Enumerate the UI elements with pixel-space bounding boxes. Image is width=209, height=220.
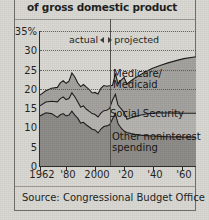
title-divider (15, 19, 195, 20)
right-arrow-icon (108, 37, 112, 43)
area-label-other-line2: spending (112, 142, 201, 153)
page-title: of gross domestic product (27, 1, 197, 13)
gridline-35 (40, 31, 196, 32)
area-label-medicare-line2: Medicaid (113, 79, 162, 90)
legend: actual projected (58, 33, 170, 46)
y-tick-15: 15 (24, 103, 37, 114)
y-tick-30: 30 (24, 45, 37, 56)
y-tick-10: 10 (24, 122, 37, 133)
legend-actual-label: actual (69, 35, 98, 45)
area-label-other-noninterest: Other noninterest spending (112, 131, 201, 153)
source-divider (15, 186, 195, 187)
area-label-other-line1: Other noninterest (112, 131, 201, 142)
y-tick-20: 20 (24, 83, 37, 94)
x-label-1962: 1962 (29, 169, 54, 180)
x-label-2000: 2000 (84, 169, 109, 180)
left-arrow-icon (100, 37, 104, 43)
area-label-medicare-medicaid: Medicare/ Medicaid (113, 68, 162, 90)
area-label-social-security: Social Security (110, 108, 184, 119)
y-tick-5: 5 (31, 141, 37, 152)
y-tick-25: 25 (24, 64, 37, 75)
x-label-2020: '20 (118, 169, 133, 180)
y-axis-line (39, 31, 40, 166)
area-label-medicare-line1: Medicare/ (113, 68, 162, 79)
x-label-1980: '80 (60, 169, 75, 180)
chart-figure: of gross domestic product 35% 30 25 (0, 0, 209, 220)
legend-projected-label: projected (114, 35, 159, 45)
gridline-30 (40, 50, 196, 51)
y-tick-35: 35% (15, 26, 37, 37)
x-label-2040: '40 (147, 169, 162, 180)
x-axis-line (39, 166, 196, 167)
source-note: Source: Congressional Budget Office (22, 192, 197, 203)
x-label-2060: '60 (176, 169, 191, 180)
